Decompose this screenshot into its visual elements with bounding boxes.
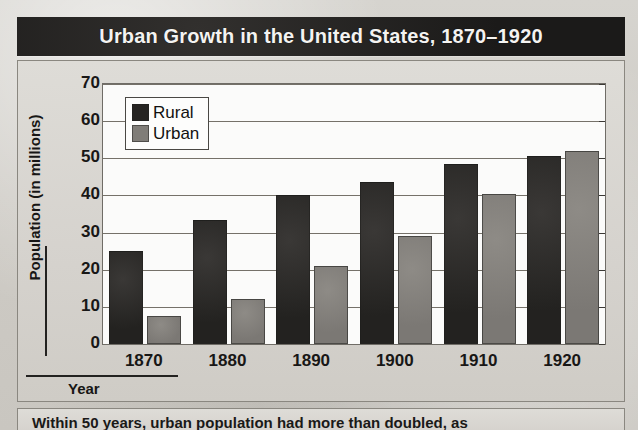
y-tick-label: 20: [66, 259, 100, 279]
bar-urban-1910: [482, 194, 516, 344]
figure-title-banner: Urban Growth in the United States, 1870–…: [17, 17, 625, 56]
bar-urban-1900: [398, 236, 432, 344]
y-tick-label: 40: [66, 184, 100, 204]
chart-panel: Population (in millions) 010203040506070…: [17, 60, 625, 402]
plot-area: Rural Urban: [102, 83, 606, 345]
bar-urban-1880: [231, 299, 265, 344]
tick-mark: [599, 344, 605, 345]
bar-rural-1890: [276, 195, 310, 344]
y-tick-label: 30: [66, 222, 100, 242]
y-axis-title-rule: [45, 246, 47, 356]
bar-urban-1890: [314, 266, 348, 344]
x-tick-label: 1870: [125, 351, 163, 371]
y-tick-label: 70: [66, 73, 100, 93]
bar-rural-1880: [193, 220, 227, 344]
legend-label-rural: Rural: [153, 104, 194, 121]
y-tick-label: 50: [66, 147, 100, 167]
bar-rural-1900: [360, 182, 394, 344]
x-tick-label: 1920: [543, 351, 581, 371]
x-axis-title: Year: [68, 380, 100, 397]
x-tick-label: 1880: [209, 351, 247, 371]
page-title: Urban Growth in the United States, 1870–…: [99, 25, 542, 48]
x-axis-title-rule: [26, 375, 178, 377]
y-tick-label: 60: [66, 110, 100, 130]
caption-text: Within 50 years, urban population had mo…: [32, 414, 468, 430]
legend-item-rural: Rural: [132, 102, 199, 123]
legend-label-urban: Urban: [153, 125, 199, 142]
legend-swatch-rural: [132, 104, 149, 121]
legend-item-urban: Urban: [132, 123, 199, 144]
bar-rural-1910: [444, 164, 478, 344]
bar-urban-1920: [565, 151, 599, 344]
bar-rural-1870: [109, 251, 143, 344]
x-tick-label: 1900: [376, 351, 414, 371]
y-axis-title: Population (in millions): [26, 98, 43, 298]
caption-panel: Within 50 years, urban population had mo…: [17, 408, 625, 430]
y-tick-label: 10: [66, 296, 100, 316]
y-axis-tick-labels: 010203040506070: [56, 61, 100, 403]
x-axis-tick-labels: 187018801890190019101920: [102, 351, 606, 375]
bar-rural-1920: [527, 156, 561, 344]
chart-legend: Rural Urban: [125, 97, 209, 150]
x-tick-label: 1910: [460, 351, 498, 371]
y-tick-label: 0: [66, 333, 100, 353]
figure-root: Urban Growth in the United States, 1870–…: [0, 0, 638, 430]
x-tick-label: 1890: [292, 351, 330, 371]
bar-urban-1870: [147, 316, 181, 344]
legend-swatch-urban: [132, 125, 149, 142]
